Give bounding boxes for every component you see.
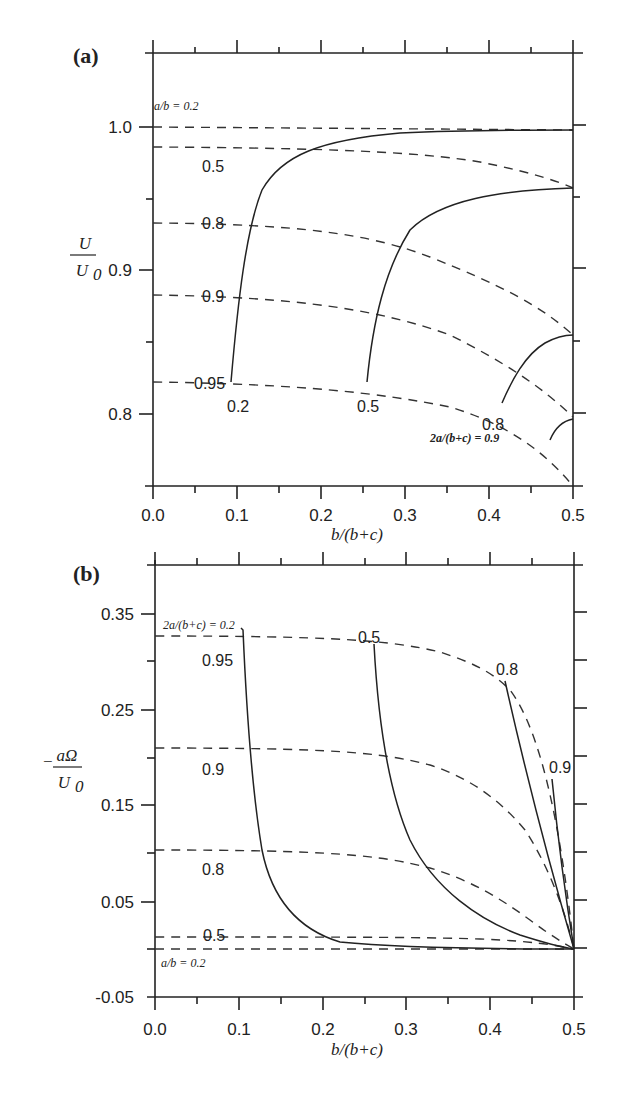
y-tick-label: 0.05 [101,893,134,912]
x-tick-label: 0.1 [227,1020,251,1039]
x-tick-label: 0.5 [561,506,585,525]
x-axis-title: b/(b+c) [331,1040,383,1059]
x-tick-label: 0.3 [393,506,417,525]
dashed-curve-ab-0.2 [153,127,573,130]
solid-curve-ab-0.95 [241,628,574,949]
y-axis-title: U U 0 [70,234,102,284]
solid-curve-ab-0.5 [374,644,574,949]
svg-text:aΩ: aΩ [57,746,78,765]
curve-label: 0.9 [202,288,224,305]
left-ticks [141,614,155,949]
curve-label: 0.9 [549,759,571,776]
svg-text:0: 0 [93,265,102,284]
svg-text:U: U [76,261,90,280]
curve-label: 0.5 [202,158,224,175]
x-tick-label: 0.0 [141,506,165,525]
panel-b: (b) [42,552,587,1059]
x-tick-label: 0.4 [477,506,501,525]
panel-b-label: (b) [73,561,100,586]
left-ticks [139,127,153,414]
bottom-ticks [197,997,532,1010]
solid-curve-c-0.8 [502,335,573,403]
y-tick-label: -0.05 [95,988,134,1007]
curve-label: 0.8 [496,661,518,678]
top-ticks [155,552,532,565]
dashed-curve-c-0.5 [155,748,574,949]
y-tick-label: 0.8 [108,405,132,424]
y-tick-label: 0.15 [101,796,134,815]
y-axis-title: − aΩ U 0 [42,746,84,796]
solid-curve-c-0.9 [550,419,573,440]
dashed-curve-c-0.2 [155,636,574,949]
top-ticks [153,40,531,53]
x-tick-label: 0.5 [562,1020,586,1039]
x-tick-label: 0.2 [309,506,333,525]
x-tick-label: 0.4 [478,1020,502,1039]
right-ticks [574,612,587,948]
panel-a: (a) [70,40,586,544]
y-tick-label: 0.9 [108,261,132,280]
svg-text:U: U [79,234,93,253]
x-tick-label: 0.0 [143,1020,167,1039]
svg-text:−: − [42,752,53,771]
panel-a-label: (a) [73,43,99,68]
curve-label: 0.9 [202,761,224,778]
curve-label: 2a/(b+c) = 0.9 [429,431,499,445]
right-ticks [573,125,586,413]
x-tick-label: 0.3 [394,1020,418,1039]
solid-curve-c-0.2 [231,130,573,382]
y-tick-label: 1.0 [108,118,132,137]
curve-label: 0.8 [202,215,224,232]
curve-label: 0.95 [202,652,233,669]
svg-text:U: U [58,773,72,792]
curve-label: a/b = 0.2 [161,956,205,970]
x-tick-label: 0.2 [311,1020,335,1039]
curve-label: 2a/(b+c) = 0.2 [163,618,235,632]
curve-label: 0.8 [202,861,224,878]
y-tick-label: 0.35 [101,605,134,624]
figure: (a) [0,0,627,1099]
svg-text:0: 0 [75,777,84,796]
x-tick-label: 0.1 [225,506,249,525]
y-tick-label: 0.25 [101,701,134,720]
curve-label: 0.5 [357,398,379,415]
curve-label: a/b = 0.2 [154,99,198,113]
curve-label: 0.95 [194,375,225,392]
solid-curve-c-0.5 [367,188,573,382]
dashed-curve-ab-0.8 [153,223,573,335]
curve-label: 0.5 [203,927,225,944]
curve-label: 0.5 [358,629,380,646]
x-axis-title: b/(b+c) [331,525,383,544]
bottom-ticks [153,486,573,499]
curve-label: 0.2 [227,398,249,415]
